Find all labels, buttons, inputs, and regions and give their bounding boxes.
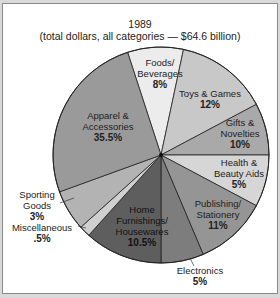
label-electronics: Electronics5% <box>168 265 232 287</box>
label-foods: Foods/Beverages8% <box>128 57 192 90</box>
label-gifts: Gifts &Novelties10% <box>210 117 270 150</box>
label-health: Health &Beauty Aids5% <box>204 157 274 190</box>
label-apparel: Apparel &Accessories35.5% <box>72 110 144 143</box>
label-publishing: Publishing/Stationery11% <box>185 198 251 231</box>
label-sporting: SportingGoods3% <box>14 189 60 222</box>
label-misc: Miscellaneous.5% <box>4 222 80 244</box>
label-home: HomeFurnishings/Housewares10.5% <box>106 204 178 248</box>
label-toys: Toys & Games12% <box>172 88 248 110</box>
